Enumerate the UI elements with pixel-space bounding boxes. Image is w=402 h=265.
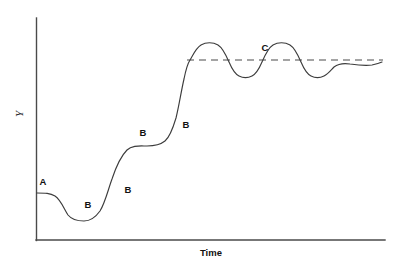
annotation-label-b-plateau: B [140, 127, 147, 138]
annotation-label-b-rise-2: B [183, 119, 190, 130]
chart-figure: A B B B B C Time Y [0, 0, 402, 265]
annotation-label-b-trough: B [85, 199, 92, 210]
annotation-label-a: A [40, 176, 47, 187]
stepwise-growth-chart: A B B B B C Time Y [0, 0, 402, 265]
annotation-label-c: C [262, 42, 269, 53]
chart-background [0, 0, 402, 265]
x-axis-title: Time [200, 247, 222, 258]
annotation-label-b-rise-1: B [125, 184, 132, 195]
